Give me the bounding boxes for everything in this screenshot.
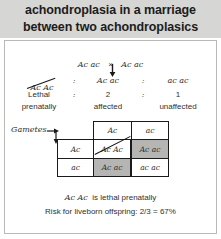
ratio-separator-2: :: [135, 76, 151, 85]
punnett-cell-0-0: Ac Ac: [93, 139, 131, 158]
punnett-column-header-0: Ac: [93, 121, 131, 139]
count-separator-1: :: [67, 90, 81, 99]
offspring-genotype-2-label: ac ac: [151, 76, 205, 85]
punnett-cell-1-0: Ac ac: [93, 158, 131, 177]
parent-genotype-1: Ac ac: [78, 60, 100, 69]
figure-body: Ac ac × Ac ac Ac Ac : Ac ac : ac ac Leth…: [4, 40, 217, 234]
punnett-square: Ac ac Ac Ac Ac Ac ac ac Ac ac ac ac: [57, 121, 169, 177]
header-title-line-2: between two achondroplasics: [23, 19, 198, 36]
offspring-count-row: Lethal : 2 : 1: [5, 90, 216, 102]
offspring-description-1: affected: [81, 102, 135, 111]
offspring-description-0: prenatally: [11, 102, 67, 111]
parent-genotype-2: Ac ac: [121, 60, 143, 69]
count-separator-2: :: [135, 90, 151, 99]
punnett-row-header-0: Ac: [57, 139, 93, 158]
offspring-count-0: Lethal: [11, 90, 67, 99]
ratio-separator-1: :: [67, 76, 81, 85]
offspring-count-2: 1: [151, 90, 205, 99]
punnett-cell-1-1: ac ac: [131, 158, 169, 177]
figure-header: achondroplasia in a marriage between two…: [0, 0, 221, 38]
lethal-note: Ac Ac is lethal prenatally: [5, 186, 216, 204]
punnett-column-header-1: ac: [131, 121, 169, 139]
punnett-corner-cell: [57, 121, 93, 139]
offspring-description-2: unaffected: [149, 102, 207, 111]
lethal-note-text: is lethal prenatally: [92, 193, 156, 202]
lethal-note-genotype: Ac Ac: [65, 193, 88, 202]
achondroplasia-punnett-figure: achondroplasia in a marriage between two…: [0, 0, 221, 239]
offspring-genotype-1-label: Ac ac: [81, 76, 135, 85]
punnett-cell-0-1: Ac ac: [131, 139, 169, 158]
header-title-line-1: achondroplasia in a marriage: [25, 2, 196, 19]
risk-note: Risk for liveborn offspring: 2/3 = 67%: [5, 207, 216, 216]
offspring-genotype-row: Ac Ac : Ac ac : ac ac: [5, 76, 216, 88]
offspring-count-1: 2: [81, 90, 135, 99]
punnett-row-header-1: ac: [57, 158, 93, 177]
gametes-label: Gametes: [11, 125, 47, 134]
offspring-description-row: prenatally affected unaffected: [5, 102, 216, 114]
